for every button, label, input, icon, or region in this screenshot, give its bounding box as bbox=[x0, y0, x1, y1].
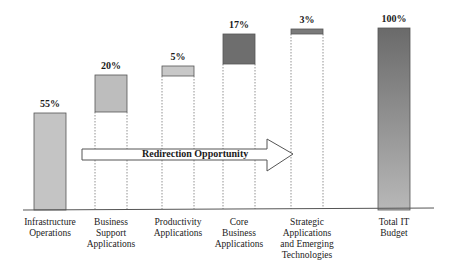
value-label: 5% bbox=[158, 51, 198, 62]
bar-3 bbox=[223, 34, 255, 64]
value-label: 100% bbox=[374, 13, 414, 24]
bar-1 bbox=[95, 75, 127, 112]
value-label: 3% bbox=[287, 14, 327, 25]
bar-0 bbox=[34, 113, 66, 210]
bars bbox=[34, 28, 410, 210]
bar-2 bbox=[162, 66, 194, 76]
x-axis-baseline bbox=[23, 208, 434, 210]
value-label: 17% bbox=[219, 19, 259, 30]
value-label: 55% bbox=[30, 98, 70, 109]
bar-5 bbox=[378, 28, 410, 210]
category-label: StrategicApplicationsand EmergingTechnol… bbox=[267, 217, 347, 261]
arrow-label: Redirection Opportunity bbox=[142, 148, 248, 159]
value-label: 20% bbox=[91, 60, 131, 71]
category-label: Total ITBudget bbox=[354, 217, 434, 239]
bar-4 bbox=[291, 29, 323, 34]
